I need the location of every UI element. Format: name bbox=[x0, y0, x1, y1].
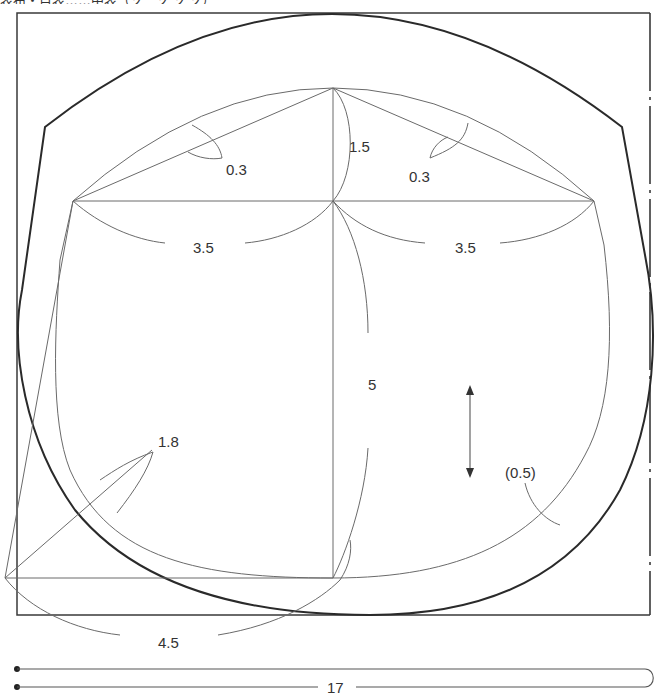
label-half-width-left: 3.5 bbox=[193, 239, 214, 256]
outer-cut-line bbox=[18, 14, 653, 615]
grainline-arrow-icon bbox=[466, 385, 474, 478]
label-bottom-radius: 4.5 bbox=[158, 634, 179, 651]
label-corner-diagonal: 1.8 bbox=[158, 433, 179, 450]
label-half-width-right: 3.5 bbox=[455, 239, 476, 256]
label-apex-height: 1.5 bbox=[349, 138, 370, 155]
label-seam-allowance: (0.5) bbox=[505, 464, 536, 481]
construction-lines bbox=[5, 88, 594, 578]
dimension-arcs bbox=[5, 88, 594, 635]
label-strip-length: 17 bbox=[327, 679, 344, 696]
label-dart-left: 0.3 bbox=[226, 161, 247, 178]
pattern-diagram: 0.3 0.3 1.5 3.5 3.5 5 1.8 (0.5) 4.5 17 bbox=[0, 0, 671, 698]
label-dart-right: 0.3 bbox=[409, 168, 430, 185]
label-center-height: 5 bbox=[368, 376, 376, 393]
binding-strip: 17 bbox=[14, 666, 653, 696]
